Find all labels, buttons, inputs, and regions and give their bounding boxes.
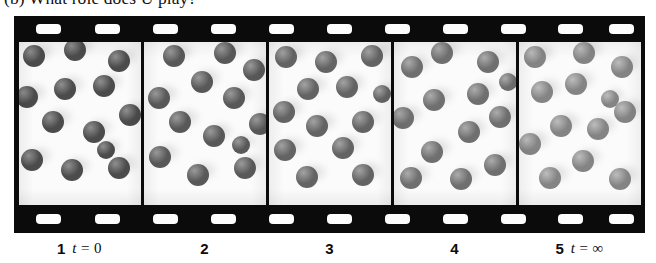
- sprocket-hole: [385, 214, 410, 224]
- particle-sphere: [450, 168, 472, 190]
- particle-sphere: [108, 50, 130, 72]
- particle-sphere: [550, 115, 572, 137]
- particle-sphere: [108, 157, 130, 179]
- sprocket-hole-row-bottom: [14, 205, 645, 233]
- sprocket-hole: [95, 24, 120, 34]
- sprocket-hole: [36, 214, 61, 224]
- sphere-layer: [269, 42, 391, 205]
- particle-sphere: [223, 87, 245, 109]
- sprocket-hole: [269, 24, 294, 34]
- particle-sphere: [21, 149, 43, 171]
- particle-sphere: [19, 86, 39, 108]
- frame-number: 4: [450, 240, 458, 257]
- particle-sphere: [352, 164, 374, 186]
- sprocket-hole: [609, 214, 634, 224]
- sphere-layer: [394, 42, 516, 205]
- sprocket-hole: [211, 214, 236, 224]
- particle-sphere: [458, 121, 480, 143]
- sprocket-hole: [95, 214, 120, 224]
- particle-sphere: [273, 101, 295, 123]
- particle-sphere: [611, 56, 633, 78]
- frame-number: 2: [200, 240, 208, 257]
- film-frames-area: [14, 42, 645, 205]
- particle-sphere: [531, 81, 553, 103]
- particle-sphere: [243, 59, 265, 81]
- particle-sphere: [148, 87, 170, 109]
- particle-sphere: [119, 104, 141, 126]
- particle-sphere: [187, 164, 209, 186]
- frame-number: 3: [325, 240, 333, 257]
- sphere-layer: [144, 42, 266, 205]
- frame-label-5: 5t = ∞: [519, 236, 641, 260]
- particle-sphere: [587, 118, 609, 140]
- sprocket-hole: [501, 214, 526, 224]
- particle-sphere: [467, 83, 489, 105]
- sprocket-hole: [558, 214, 583, 224]
- frame-labels-row: 1t = 02345t = ∞: [14, 236, 645, 260]
- film-frame-5: [519, 42, 641, 205]
- sprocket-hole: [153, 24, 178, 34]
- frame-label-3: 3: [269, 236, 391, 260]
- sprocket-hole: [36, 24, 61, 34]
- particle-sphere: [163, 45, 185, 67]
- particle-sphere: [297, 78, 319, 100]
- particle-sphere: [93, 75, 115, 97]
- particle-sphere: [97, 141, 115, 159]
- film-frame-4: [394, 42, 516, 205]
- sprocket-hole: [269, 214, 294, 224]
- particle-sphere: [214, 42, 236, 64]
- particle-sphere: [572, 150, 594, 172]
- particle-sphere: [232, 136, 250, 154]
- particle-sphere: [169, 111, 191, 133]
- particle-sphere: [332, 137, 354, 159]
- sprocket-hole: [153, 214, 178, 224]
- particle-sphere: [54, 78, 76, 100]
- frame-time-annotation: t = 0: [72, 240, 102, 257]
- particle-sphere: [601, 90, 619, 108]
- sprocket-band-top: [14, 16, 645, 42]
- particle-sphere: [524, 46, 546, 68]
- sprocket-hole: [609, 24, 634, 34]
- particle-sphere: [421, 141, 443, 163]
- figure-caption-top: (b) What role does U play?: [4, 0, 644, 11]
- frame-label-1: 1t = 0: [19, 236, 141, 260]
- particle-sphere: [573, 42, 595, 64]
- sprocket-band-bottom: [14, 205, 645, 233]
- sprocket-hole: [443, 214, 468, 224]
- particle-sphere: [423, 89, 445, 111]
- sprocket-hole-row-top: [14, 16, 645, 42]
- time-variable: t: [72, 240, 77, 256]
- particle-sphere: [401, 56, 423, 78]
- particle-sphere: [315, 51, 337, 73]
- particle-sphere: [519, 133, 541, 155]
- particle-sphere: [149, 146, 171, 168]
- particle-sphere: [489, 106, 511, 128]
- particle-sphere: [274, 139, 296, 161]
- particle-sphere: [499, 73, 516, 91]
- particle-sphere: [249, 113, 266, 135]
- sprocket-hole: [327, 24, 352, 34]
- particle-sphere: [83, 121, 105, 143]
- frame-label-2: 2: [144, 236, 266, 260]
- frame-number: 5: [555, 240, 563, 257]
- frame-label-4: 4: [394, 236, 516, 260]
- film-frame-2: [144, 42, 266, 205]
- particle-sphere: [484, 154, 506, 176]
- sprocket-hole: [327, 214, 352, 224]
- particle-sphere: [275, 46, 297, 68]
- particle-sphere: [296, 166, 318, 188]
- sprocket-hole: [385, 24, 410, 34]
- film-frame-3: [269, 42, 391, 205]
- particle-sphere: [352, 111, 374, 133]
- sphere-layer: [519, 42, 641, 205]
- particle-sphere: [609, 168, 631, 190]
- particle-sphere: [361, 45, 383, 67]
- particle-sphere: [61, 159, 83, 181]
- particle-sphere: [306, 115, 328, 137]
- frame-number: 1: [57, 240, 65, 257]
- particle-sphere: [64, 42, 86, 61]
- particle-sphere: [373, 85, 391, 103]
- particle-sphere: [394, 107, 415, 129]
- sprocket-hole: [501, 24, 526, 34]
- particle-sphere: [400, 167, 422, 189]
